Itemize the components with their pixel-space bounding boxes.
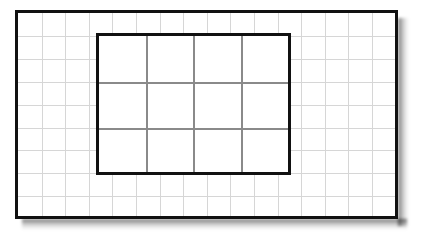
inner-grid-hline-0: [99, 82, 288, 84]
inner-grid-vline-0: [146, 36, 148, 172]
inner-grid: [99, 36, 288, 172]
inner-grid-vline-2: [241, 36, 243, 172]
inner-grid-hline-1: [99, 128, 288, 130]
inner-rectangle: [96, 33, 291, 175]
outer-grid-vline-0: [42, 13, 43, 216]
drop-shadow-bottom: [22, 219, 407, 230]
drop-shadow-right: [398, 18, 409, 226]
outer-grid-hline-7: [18, 196, 395, 197]
outer-grid-vline-14: [372, 13, 373, 216]
outer-grid-vline-13: [348, 13, 349, 216]
outer-grid-vline-1: [65, 13, 66, 216]
outer-grid-vline-2: [89, 13, 90, 216]
figure-canvas: [0, 0, 423, 237]
inner-grid-vline-1: [193, 36, 195, 172]
outer-rectangle: [15, 10, 398, 219]
outer-grid-vline-12: [325, 13, 326, 216]
outer-grid-vline-11: [301, 13, 302, 216]
